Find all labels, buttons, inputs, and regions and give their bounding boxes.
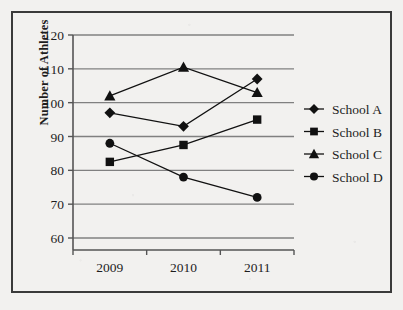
series-group <box>104 62 263 202</box>
x-tick-label: 2011 <box>244 260 271 275</box>
x-tick-label: 2010 <box>170 260 197 275</box>
y-tick-label: 120 <box>44 28 65 43</box>
y-tick-label: 80 <box>51 163 65 178</box>
marker-square <box>253 115 261 123</box>
marker-triangle <box>252 87 263 97</box>
marker-square <box>179 141 187 149</box>
y-tick-label: 90 <box>51 130 65 145</box>
marker-triangle <box>178 62 189 72</box>
chart-screenshot: Number of Athletes 607080901001101202009… <box>0 0 403 310</box>
legend-label: School C <box>332 147 382 162</box>
marker-diamond <box>178 121 189 132</box>
y-tick-label: 60 <box>51 231 65 246</box>
marker-triangle <box>104 90 115 100</box>
marker-circle <box>179 173 188 182</box>
marker-square <box>106 158 114 166</box>
marker-circle <box>310 172 318 180</box>
legend-label: School D <box>332 170 383 185</box>
x-axis-ticks: 200920102011 <box>73 250 294 275</box>
legend: School ASchool BSchool CSchool D <box>304 102 383 185</box>
legend-label: School A <box>332 102 382 117</box>
marker-circle <box>105 139 114 148</box>
marker-diamond <box>309 104 319 114</box>
y-tick-label: 70 <box>51 197 65 212</box>
marker-diamond <box>252 74 263 85</box>
chart-frame: Number of Athletes 607080901001101202009… <box>11 11 392 293</box>
marker-circle <box>253 193 262 202</box>
marker-diamond <box>104 107 115 118</box>
y-tick-label: 100 <box>44 96 65 111</box>
x-tick-label: 2009 <box>96 260 123 275</box>
marker-square <box>310 128 318 136</box>
y-tick-label: 110 <box>44 62 64 77</box>
legend-label: School B <box>332 125 382 140</box>
line-chart: 60708090100110120200920102011School ASch… <box>13 13 390 291</box>
y-axis-ticks: 60708090100110120 <box>44 28 73 246</box>
